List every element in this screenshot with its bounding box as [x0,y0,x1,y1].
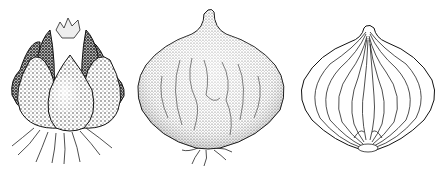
onion-cross-section-illustration [290,0,448,173]
shallot-cluster-illustration [0,0,140,173]
whole-onion-illustration [130,0,300,173]
